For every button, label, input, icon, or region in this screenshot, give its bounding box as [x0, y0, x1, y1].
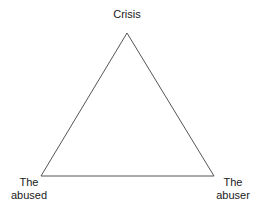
abuser-line1: The: [213, 176, 253, 189]
crisis-text: Crisis: [107, 8, 147, 21]
abused-line1: The: [9, 176, 49, 189]
triangle-diagram: Crisis The abused The abuser: [0, 0, 262, 210]
vertex-label-abused: The abused: [9, 176, 49, 202]
vertex-label-abuser: The abuser: [213, 176, 253, 202]
vertex-label-crisis: Crisis: [107, 8, 147, 21]
abused-line2: abused: [9, 189, 49, 202]
abuser-line2: abuser: [213, 189, 253, 202]
